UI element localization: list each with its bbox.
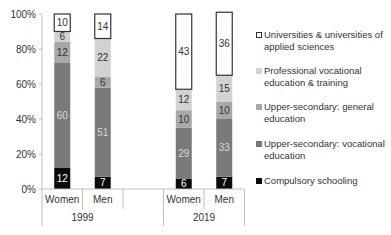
x-category-label: Men (93, 194, 112, 205)
x-group-label: 2019 (193, 212, 216, 223)
data-label: 29 (178, 148, 190, 159)
data-label: 12 (57, 47, 69, 58)
data-label: 12 (178, 94, 190, 105)
data-label: 43 (178, 46, 190, 57)
data-label: 10 (219, 105, 231, 116)
y-axis: 0%20%40%60%80%100% (10, 9, 42, 227)
legend-item-universities: Universities & universities ofapplied sc… (256, 29, 383, 53)
legend-swatch-professional-vet (256, 68, 262, 74)
data-label: 15 (219, 83, 231, 94)
y-tick-label: 100% (10, 9, 36, 20)
data-label: 60 (57, 110, 69, 121)
legend-label-upper-secondary-vocational: Upper-secondary: vocationaleducation (264, 138, 385, 162)
data-label: 7 (100, 177, 106, 188)
data-label: 14 (97, 21, 109, 32)
legend-label-compulsory: Compulsory schooling (264, 175, 357, 187)
data-label: 6 (59, 31, 65, 42)
data-label: 36 (219, 38, 231, 49)
legend-item-upper-secondary-vocational: Upper-secondary: vocationaleducation (256, 138, 385, 162)
data-label: 33 (219, 142, 231, 153)
x-category-label: Women (45, 194, 79, 205)
data-label: 12 (57, 173, 69, 184)
data-label: 51 (97, 127, 109, 138)
legend-swatch-upper-secondary-vocational (256, 141, 262, 147)
x-group-label: 1999 (71, 212, 94, 223)
legend-label-universities: Universities & universities ofapplied sc… (264, 29, 383, 53)
legend-label-upper-secondary-general: Upper-secondary: generaleducation (264, 101, 374, 125)
bars: 12601261075162214629101243733101536 (54, 12, 232, 189)
data-label: 7 (221, 177, 227, 188)
legend-item-compulsory: Compulsory schooling (256, 175, 357, 187)
y-tick-label: 60% (16, 79, 36, 90)
legend-swatch-compulsory (256, 178, 262, 184)
legend-swatch-universities (256, 32, 262, 38)
legend-item-upper-secondary-general: Upper-secondary: generaleducation (256, 101, 374, 125)
legend-item-professional-vet: Professional vocationaleducation & train… (256, 65, 362, 89)
x-axis: WomenMen1999WomenMen2019 (42, 189, 245, 226)
y-tick-label: 0% (22, 184, 37, 195)
data-label: 22 (97, 52, 109, 63)
data-label: 10 (57, 17, 69, 28)
legend-label-professional-vet: Professional vocationaleducation & train… (264, 65, 362, 89)
data-label: 10 (178, 114, 190, 125)
y-tick-label: 40% (16, 114, 36, 125)
y-tick-label: 20% (16, 149, 36, 160)
data-label: 6 (181, 178, 187, 189)
x-category-label: Women (167, 194, 201, 205)
data-label: 6 (100, 77, 106, 88)
legend-swatch-upper-secondary-general (256, 104, 262, 110)
y-tick-label: 80% (16, 44, 36, 55)
x-category-label: Men (215, 194, 234, 205)
